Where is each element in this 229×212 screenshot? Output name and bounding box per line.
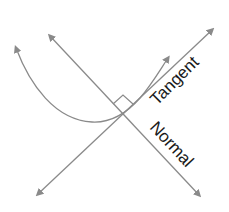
tangent-label: Tangent (146, 52, 202, 108)
normal-line (50, 36, 199, 195)
curve (16, 48, 168, 122)
normal-label: Normal (146, 118, 197, 171)
tangent-normal-diagram: Tangent Normal (0, 0, 229, 212)
right-angle-marker (113, 95, 133, 104)
